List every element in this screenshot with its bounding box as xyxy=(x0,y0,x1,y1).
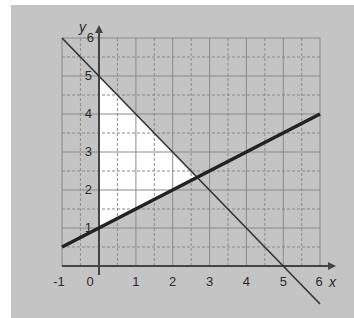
y-tick-label: 5 xyxy=(85,68,92,83)
y-tick-label: 1 xyxy=(85,220,92,235)
y-tick-label: 2 xyxy=(85,182,92,197)
x-tick-label: 0 xyxy=(86,274,93,289)
coordinate-graph: -1 0 1 2 3 4 5 6 1 2 3 4 5 6 y x xyxy=(0,0,354,318)
x-tick-label: 5 xyxy=(280,274,287,289)
x-tick-label: -1 xyxy=(53,274,65,289)
y-axis-arrow-icon xyxy=(95,25,103,33)
y-tick-label: 3 xyxy=(85,144,92,159)
y-tick-label: 4 xyxy=(85,106,92,121)
y-tick-label: 6 xyxy=(87,30,94,45)
x-tick-label: 2 xyxy=(169,274,176,289)
x-tick-label: 6 xyxy=(315,274,322,289)
y-axis-label: y xyxy=(78,19,87,35)
x-axis-arrow-icon xyxy=(328,262,336,270)
grid xyxy=(62,38,320,266)
x-tick-label: 1 xyxy=(132,274,139,289)
x-axis-label: x xyxy=(328,274,337,290)
x-tick-label: 4 xyxy=(243,274,250,289)
x-tick-labels: -1 0 1 2 3 4 5 6 xyxy=(53,274,322,289)
x-tick-label: 3 xyxy=(206,274,213,289)
